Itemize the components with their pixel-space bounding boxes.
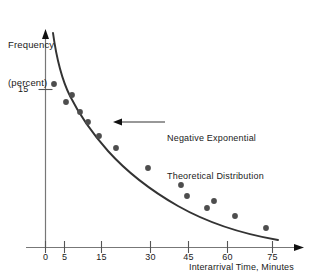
curve-annotation-line2: Theoretical Distribution bbox=[167, 170, 264, 183]
y-tick-label-15: 15 bbox=[18, 84, 28, 94]
y-axis-title-line2: (percent) bbox=[8, 77, 54, 90]
x-tick-label-30: 30 bbox=[145, 252, 155, 262]
annotation-leader bbox=[113, 119, 165, 126]
curve-annotation: Negative Exponential Theoretical Distrib… bbox=[167, 107, 264, 207]
y-axis-title-line1: Frequency bbox=[8, 39, 54, 52]
data-point bbox=[96, 133, 102, 139]
x-tick-label-5: 5 bbox=[62, 252, 67, 262]
y-axis-title: Frequency (percent) bbox=[8, 14, 54, 114]
data-point bbox=[63, 99, 69, 105]
data-point bbox=[85, 119, 91, 125]
data-point bbox=[232, 213, 238, 219]
data-point bbox=[113, 145, 119, 151]
x-axis-arrowhead bbox=[294, 244, 304, 251]
data-point bbox=[77, 109, 83, 115]
x-tick-label-15: 15 bbox=[96, 252, 106, 262]
data-point bbox=[69, 92, 75, 98]
x-axis bbox=[26, 241, 304, 253]
curve-annotation-line1: Negative Exponential bbox=[167, 132, 264, 145]
annotation-arrowhead bbox=[113, 119, 122, 126]
x-tick-label-0: 0 bbox=[43, 252, 48, 262]
chart-figure: Frequency (percent) 15 0 5 15 30 45 60 7… bbox=[0, 0, 314, 280]
data-point bbox=[145, 165, 151, 171]
data-point bbox=[263, 225, 269, 231]
x-axis-title: Interarrival Time, Minutes bbox=[189, 261, 294, 274]
